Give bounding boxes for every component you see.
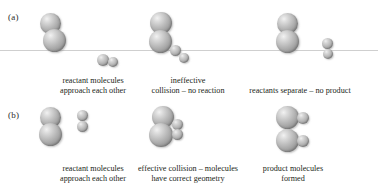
caption-b3: product molecules formed — [229, 164, 357, 184]
caption-a3: reactants separate – no product — [222, 86, 378, 96]
reactant-large-atom-2 — [43, 29, 66, 52]
reactant-small-atom-2 — [108, 57, 118, 67]
row-label-b: (b) — [8, 110, 19, 120]
caption-b2-line2: have correct geometry — [151, 174, 224, 183]
caption-b3-line2: formed — [281, 174, 305, 183]
reactant-b-small-atom-2 — [77, 121, 88, 132]
separated-small-atom-1 — [322, 38, 333, 49]
effective-small-atom-2 — [172, 129, 183, 140]
separated-small-atom-2 — [323, 49, 333, 59]
product-1-large-atom — [276, 106, 299, 129]
product-1-small-atom — [297, 112, 309, 124]
caption-a2-line1: ineffective — [171, 76, 206, 85]
caption-b2-line1: effective collision – molecules — [138, 164, 238, 173]
caption-a3-line1: reactants separate – no product — [249, 86, 350, 95]
row-label-a: (a) — [8, 12, 19, 22]
effective-large-atom-2 — [149, 123, 173, 147]
reactant-b-large-atom-2 — [39, 123, 62, 146]
product-2-small-atom — [297, 135, 309, 147]
collision-theory-figure: (a) reactant molecules approach each oth… — [0, 0, 378, 192]
caption-a2-line2: collision – no reaction — [152, 86, 225, 95]
separated-large-atom-2 — [276, 30, 299, 53]
product-2-large-atom — [276, 129, 299, 152]
collision-large-atom-2 — [149, 30, 172, 53]
collision-small-atom-2 — [179, 53, 189, 63]
reactant-b-small-atom-1 — [77, 110, 88, 121]
caption-b3-line1: product molecules — [263, 164, 323, 173]
